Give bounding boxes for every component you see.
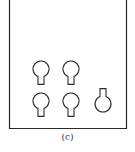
- bulb-bottom-middle-icon: [63, 93, 79, 116]
- bulb-right-inverted-icon: [95, 89, 111, 112]
- bulb-shapes-group: [33, 61, 111, 116]
- bulb-top-left-icon: [33, 61, 49, 84]
- bulb-top-middle-icon: [63, 61, 79, 84]
- figure-caption: (c): [0, 132, 135, 142]
- diagram-canvas: [0, 0, 135, 152]
- bulb-bottom-left-icon: [33, 93, 49, 116]
